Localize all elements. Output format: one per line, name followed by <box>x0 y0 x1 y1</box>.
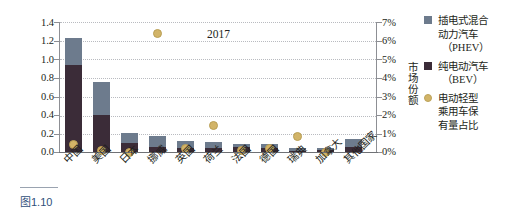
y-tick-right-6: 1% <box>382 129 408 139</box>
share-dot-sweden <box>293 132 302 141</box>
share-dot-netherlands <box>209 121 218 130</box>
y-tick-right-0: 7% <box>382 18 408 28</box>
legend-label-share-line1: 电动轻型 <box>438 92 520 106</box>
y-tick-left-3: 0.8 <box>26 73 54 83</box>
y-tick-right-5: 2% <box>382 110 408 120</box>
legend-swatch-square-icon <box>424 16 432 24</box>
legend-label-bev-line2: （BEV） <box>438 73 520 87</box>
legend-swatch-circle-icon <box>424 94 432 102</box>
bar-series-layer <box>59 22 377 153</box>
share-dot-norway <box>153 29 162 38</box>
legend-swatch-square-icon <box>424 62 432 70</box>
bar-china <box>65 38 82 153</box>
y-tick-left-1: 1.2 <box>26 36 54 46</box>
y-tick-left-0: 1.4 <box>26 18 54 28</box>
legend-label-phev-line1: 插电式混合 <box>438 14 520 28</box>
y-tick-right-3: 4% <box>382 73 408 83</box>
y-tick-right-7: 0% <box>382 147 408 157</box>
legend-label-share-line2: 乘用车保 <box>438 105 520 119</box>
caption-number: 1.10 <box>31 196 52 208</box>
legend-item-share: 电动轻型 乘用车保 有量占比 <box>424 92 520 133</box>
y-tick-right-2: 5% <box>382 55 408 65</box>
caption-rule <box>20 187 58 188</box>
bar-segment-phev <box>93 82 110 115</box>
figure-caption: 图1.10 <box>20 193 52 209</box>
y-tick-left-2: 1.0 <box>26 55 54 65</box>
legend-label-phev-line2: 动力汽车 <box>438 28 520 42</box>
legend-item-bev: 纯电动汽车 （BEV） <box>424 60 520 87</box>
legend-label-bev-line1: 纯电动汽车 <box>438 60 520 74</box>
y-tick-left-5: 0.4 <box>26 110 54 120</box>
caption-label: 图 <box>20 196 31 208</box>
chart-legend: 插电式混合 动力汽车 （PHEV） 纯电动汽车 （BEV） 电动轻型 乘用车保 … <box>424 14 520 137</box>
annotation-year: 2017 <box>207 28 230 40</box>
bar-segment-phev <box>65 38 82 65</box>
y-tick-left-6: 0.2 <box>26 129 54 139</box>
legend-label-share-line3: 有量占比 <box>438 119 520 133</box>
legend-label-phev-line3: （PHEV） <box>438 41 520 55</box>
figure-container: 电动轻型乘用车保有量/百万辆 市场份额 1.4 1.2 1.0 0.8 0.6 … <box>0 0 521 215</box>
y-tick-left-7: 0.0 <box>26 147 54 157</box>
y-tick-right-4: 3% <box>382 92 408 102</box>
y-tick-right-1: 6% <box>382 36 408 46</box>
y-tick-left-4: 0.6 <box>26 92 54 102</box>
legend-item-phev: 插电式混合 动力汽车 （PHEV） <box>424 14 520 55</box>
